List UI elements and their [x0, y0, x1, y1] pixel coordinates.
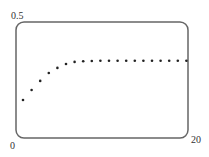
plot-frame	[16, 22, 188, 138]
data-point	[99, 59, 102, 62]
data-point	[39, 80, 42, 83]
data-point	[73, 61, 76, 64]
data-point	[151, 59, 154, 62]
data-point	[48, 72, 51, 75]
data-point	[134, 59, 137, 62]
chart: 0.5 0 20	[0, 0, 209, 157]
data-point	[168, 59, 171, 62]
data-point	[125, 59, 128, 62]
data-point	[65, 63, 68, 66]
data-point	[185, 59, 188, 62]
data-point	[22, 99, 25, 102]
data-point	[108, 59, 111, 62]
plot-area	[0, 0, 209, 157]
data-point	[82, 60, 85, 63]
data-point	[177, 59, 180, 62]
data-point	[30, 89, 33, 92]
data-point	[159, 59, 162, 62]
y-max-label: 0.5	[11, 11, 24, 21]
data-points	[22, 59, 188, 101]
x-max-label: 20	[191, 135, 201, 145]
data-point	[116, 59, 119, 62]
data-point	[91, 60, 94, 63]
origin-label: 0	[10, 141, 15, 151]
data-point	[142, 59, 145, 62]
data-point	[56, 67, 59, 70]
